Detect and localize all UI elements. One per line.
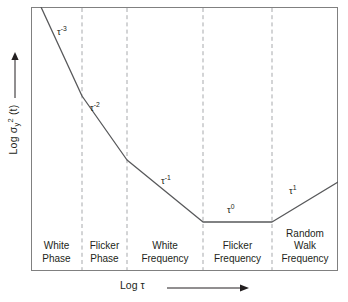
y-axis-title-superscript: 2: [6, 118, 15, 122]
region-label-flicker-frequency-line1: Flicker: [203, 240, 272, 253]
x-axis-title: Log τ: [120, 279, 145, 291]
slope-label-flicker-frequency-exp: 0: [231, 203, 235, 210]
region-label-random-walk-frequency: Random Walk Frequency: [272, 228, 338, 266]
region-label-white-phase-line2: Phase: [31, 253, 82, 266]
region-label-flicker-phase: Flicker Phase: [82, 240, 127, 265]
y-axis-title-subscript: y: [12, 123, 21, 127]
region-label-white-frequency: White Frequency: [127, 240, 203, 265]
plot-area: τ-3 τ-2 τ-1 τ0 τ1 White Phase Flicker Ph…: [31, 7, 338, 271]
allan-variance-figure: Log σy2 (t) τ-3 τ-2 τ-1 τ0: [0, 0, 348, 302]
region-label-random-walk-line1: Random: [272, 228, 338, 241]
region-label-random-walk-line2: Walk: [272, 240, 338, 253]
region-label-flicker-frequency: Flicker Frequency: [203, 240, 272, 265]
region-label-white-phase-line1: White: [31, 240, 82, 253]
region-label-white-phase: White Phase: [31, 240, 82, 265]
region-label-flicker-phase-line1: Flicker: [82, 240, 127, 253]
slope-label-white-phase-exp: -3: [61, 25, 67, 32]
y-axis-group: Log σy2 (t): [0, 52, 30, 212]
region-label-white-frequency-line2: Frequency: [127, 253, 203, 266]
slope-label-flicker-phase: τ-2: [90, 101, 100, 113]
y-axis-title-prefix: Log σ: [7, 127, 19, 155]
region-label-flicker-phase-line2: Phase: [82, 253, 127, 266]
slope-label-white-frequency-exp: -1: [165, 174, 171, 181]
slope-label-flicker-frequency: τ0: [227, 203, 235, 215]
y-axis-title: Log σy2 (t): [6, 65, 21, 195]
x-axis-group: Log τ: [120, 278, 280, 296]
slope-label-random-walk-exp: 1: [293, 184, 297, 191]
slope-label-flicker-phase-exp: -2: [94, 101, 100, 108]
region-label-flicker-frequency-line2: Frequency: [203, 253, 272, 266]
y-axis-title-suffix: (t): [7, 105, 19, 119]
region-label-random-walk-line3: Frequency: [272, 253, 338, 266]
slope-label-random-walk: τ1: [289, 184, 297, 196]
slope-label-white-phase: τ-3: [57, 25, 67, 37]
x-axis-right-arrow-icon: [167, 283, 249, 293]
slope-label-white-frequency: τ-1: [161, 174, 171, 186]
region-label-white-frequency-line1: White: [127, 240, 203, 253]
